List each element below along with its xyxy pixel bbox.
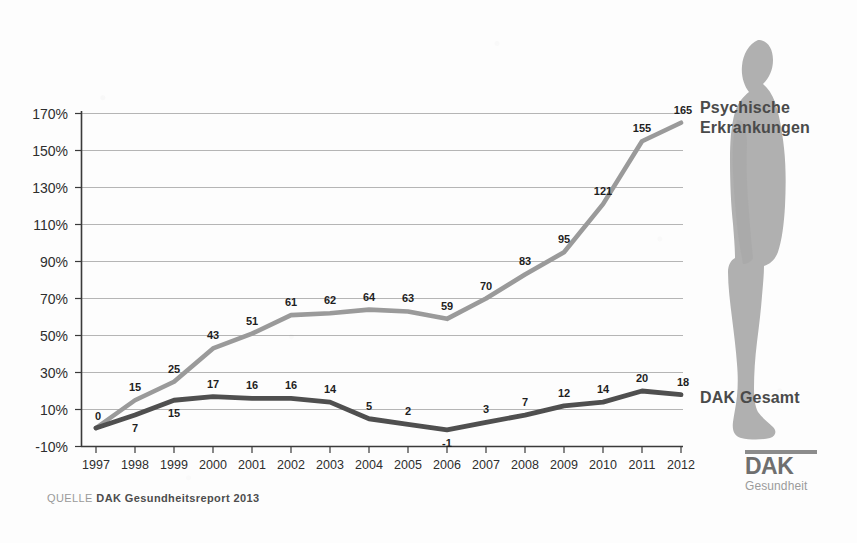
source-value: DAK Gesundheitsreport 2013 bbox=[96, 492, 259, 504]
series-line bbox=[96, 123, 681, 428]
data-point-label: 16 bbox=[285, 379, 297, 391]
y-tick-label: 170% bbox=[32, 106, 68, 122]
data-point-label: 83 bbox=[519, 255, 531, 267]
line-chart: 170% 150% 130% 110% 90% 70% 50% 30% 10% … bbox=[0, 0, 857, 543]
y-tick-label: 10% bbox=[40, 402, 68, 418]
data-point-label: 2 bbox=[405, 405, 411, 417]
data-point-label: 70 bbox=[480, 280, 492, 292]
data-point-label: 14 bbox=[597, 383, 610, 395]
data-point-label: 63 bbox=[402, 292, 414, 304]
x-tick-label: 1997 bbox=[82, 458, 110, 472]
data-point-label: 15 bbox=[168, 407, 180, 419]
data-point-label: 20 bbox=[636, 372, 648, 384]
x-tick-label: 2012 bbox=[667, 458, 695, 472]
x-tick-label: 2004 bbox=[355, 458, 383, 472]
x-tick-label: 2009 bbox=[550, 458, 578, 472]
y-tick-label: 30% bbox=[40, 365, 68, 381]
data-point-label: 165 bbox=[674, 104, 692, 116]
data-point-label: 18 bbox=[677, 376, 689, 388]
x-tick-label: 2003 bbox=[316, 458, 344, 472]
data-point-label: 5 bbox=[366, 400, 372, 412]
y-tick-label: -10% bbox=[35, 439, 68, 455]
data-point-label: 16 bbox=[246, 379, 258, 391]
data-point-label: 25 bbox=[168, 363, 180, 375]
data-point-label: 0 bbox=[95, 410, 101, 422]
y-tick-label: 110% bbox=[33, 217, 68, 233]
data-point-label: 15 bbox=[129, 381, 141, 393]
data-point-label: 12 bbox=[558, 387, 570, 399]
logo-wordmark: DAK bbox=[745, 456, 821, 478]
data-point-label: 62 bbox=[324, 294, 336, 306]
source-key: QUELLE bbox=[47, 492, 93, 504]
y-axis-labels: 170% 150% 130% 110% 90% 70% 50% 30% 10% … bbox=[32, 106, 68, 455]
x-tick-label: 1999 bbox=[160, 458, 188, 472]
data-point-label: 155 bbox=[633, 122, 651, 134]
x-tick-label: 2005 bbox=[394, 458, 422, 472]
x-axis-labels: 1997 1998 1999 2000 2001 2002 2003 2004 … bbox=[82, 458, 695, 472]
logo-subtitle: Gesundheit bbox=[745, 479, 821, 493]
data-point-label: 51 bbox=[246, 315, 258, 327]
chart-figure: 170% 150% 130% 110% 90% 70% 50% 30% 10% … bbox=[0, 0, 857, 543]
data-point-label: 64 bbox=[363, 291, 376, 303]
data-point-label: 59 bbox=[441, 300, 453, 312]
y-tick-label: 150% bbox=[32, 143, 68, 159]
y-tick-label: 130% bbox=[32, 180, 68, 196]
series-label-dak-gesamt: DAK Gesamt bbox=[700, 388, 800, 408]
x-tick-label: 2000 bbox=[199, 458, 227, 472]
data-point-label: 17 bbox=[207, 378, 219, 390]
x-tick-label: 2006 bbox=[433, 458, 461, 472]
series-layer bbox=[96, 123, 681, 430]
data-point-label: 43 bbox=[207, 329, 219, 341]
data-point-label: -1 bbox=[442, 437, 452, 449]
data-point-label: 7 bbox=[132, 422, 138, 434]
x-tick-label: 2011 bbox=[629, 458, 656, 472]
data-point-label: 121 bbox=[594, 185, 612, 197]
x-tick-label: 2007 bbox=[472, 458, 500, 472]
data-point-label: 7 bbox=[522, 396, 528, 408]
data-point-label: 95 bbox=[558, 233, 570, 245]
y-tick-label: 70% bbox=[40, 291, 68, 307]
x-tick-label: 2001 bbox=[238, 458, 266, 472]
data-point-label: 3 bbox=[483, 403, 489, 415]
dak-logo: DAK Gesundheit bbox=[745, 450, 821, 493]
data-point-label: 61 bbox=[285, 296, 297, 308]
source-note: QUELLE DAK Gesundheitsreport 2013 bbox=[47, 492, 260, 504]
series-line bbox=[96, 391, 681, 430]
series-label-psychische-erkrankungen: Psychische Erkrankungen bbox=[700, 98, 810, 138]
x-tick-label: 2002 bbox=[277, 458, 305, 472]
y-tick-label: 90% bbox=[40, 254, 68, 270]
x-axis-ticks bbox=[96, 447, 681, 453]
x-tick-label: 2010 bbox=[589, 458, 617, 472]
x-tick-label: 2008 bbox=[511, 458, 539, 472]
x-tick-label: 1998 bbox=[121, 458, 149, 472]
y-axis-ticks bbox=[75, 114, 81, 447]
y-tick-label: 50% bbox=[40, 328, 68, 344]
data-point-label: 14 bbox=[324, 383, 337, 395]
